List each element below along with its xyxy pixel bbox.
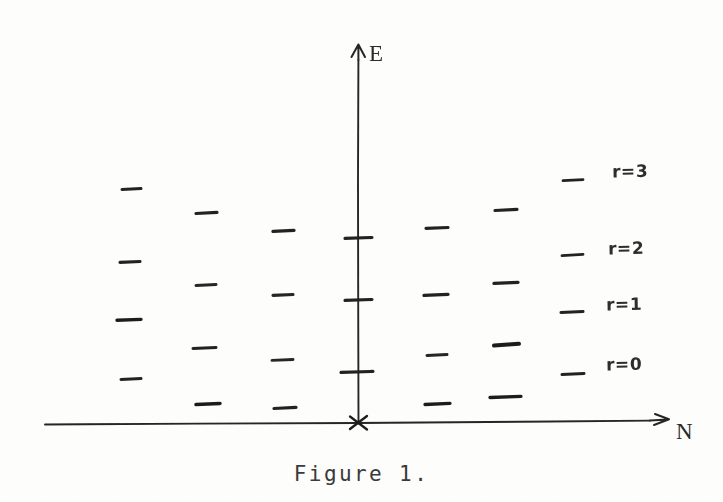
level-label-r1: r=1 [606, 294, 643, 315]
particle-number-axis-label: N [676, 420, 693, 443]
energy-axis-label: E [369, 42, 384, 65]
figure-panel: E N r=3 r=2 r=1 r=0 Figure 1. [0, 0, 723, 502]
level-label-r2: r=2 [608, 238, 645, 259]
level-column-5 [424, 228, 450, 405]
level-column-1 [117, 189, 141, 380]
level-label-r3: r=3 [612, 161, 649, 182]
level-label-r0: r=0 [606, 354, 643, 375]
level-column-6 [490, 209, 521, 397]
figure-caption: Figure 1. [0, 462, 723, 486]
e-axis-line [352, 45, 366, 424]
reference-level-ticks [561, 180, 584, 375]
level-column-2 [193, 212, 220, 404]
level-column-3 [272, 230, 296, 408]
level-column-4-on-axis [341, 238, 373, 373]
